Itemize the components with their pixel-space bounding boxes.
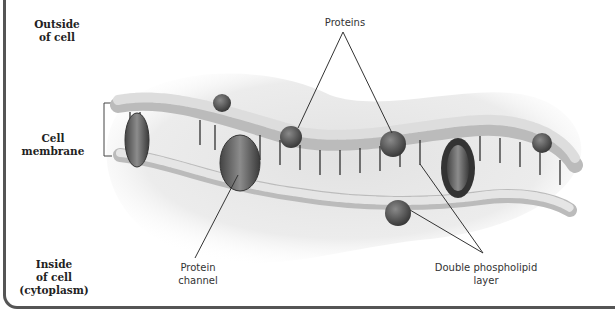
label-cell-membrane: Cell membrane — [14, 132, 92, 158]
callout-protein-channel: Protein channel — [168, 261, 228, 287]
peripheral-protein — [532, 133, 552, 153]
callout-proteins: Proteins — [313, 16, 377, 29]
peripheral-protein — [213, 94, 231, 112]
peripheral-protein — [280, 126, 302, 148]
peripheral-protein — [380, 131, 406, 157]
protein-channel-left — [125, 113, 149, 167]
callout-double-phospholipid-layer: Double phospholipid layer — [426, 261, 546, 287]
label-inside-of-cell: Inside of cell (cytoplasm) — [14, 258, 94, 297]
peripheral-protein — [385, 200, 411, 226]
protein-channel — [220, 135, 260, 191]
label-outside-of-cell: Outside of cell — [22, 18, 92, 44]
